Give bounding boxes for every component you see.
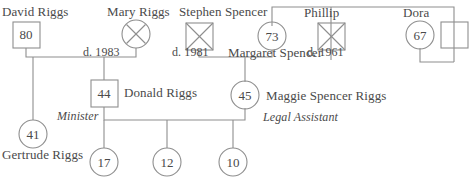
label-phillip-death: d. 1961 [307, 46, 344, 58]
label-donald-role: Minister [57, 110, 98, 122]
marriage-line-dora-spouse [420, 48, 454, 62]
label-stephen-death: d. 1981 [172, 46, 209, 58]
label-gertrude-name: Gertrude Riggs [2, 148, 83, 161]
marriage-line-donald-maggie [104, 107, 245, 120]
age-margaret: 73 [266, 29, 279, 44]
age-child2: 12 [161, 155, 174, 170]
genogram-canvas: 80 73 67 44 45 41 17 12 10 David Riggs M… [0, 0, 474, 185]
age-maggie: 45 [239, 88, 252, 103]
label-mary-name: Mary Riggs [107, 5, 170, 18]
age-dora: 67 [414, 28, 428, 43]
age-child3: 10 [227, 155, 240, 170]
label-david-name: David Riggs [2, 5, 68, 18]
label-stephen-name: Stephen Spencer [179, 5, 268, 18]
age-donald: 44 [98, 86, 112, 101]
label-donald-name: Donald Riggs [124, 86, 197, 99]
label-maggie-role: Legal Assistant [263, 111, 338, 123]
age-gertrude: 41 [27, 127, 40, 142]
label-dora-name: Dora [403, 6, 429, 19]
age-david: 80 [20, 27, 33, 42]
label-maggie-name: Maggie Spencer Riggs [266, 89, 386, 102]
label-riggs-death: d. 1983 [83, 46, 120, 58]
label-phillip-name: Phillip [304, 6, 339, 19]
age-child1: 17 [98, 155, 112, 170]
